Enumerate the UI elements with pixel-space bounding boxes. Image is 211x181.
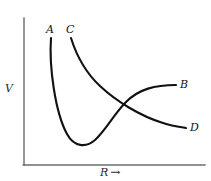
curve-label-c: C	[66, 24, 74, 35]
curve-label-b: B	[180, 79, 188, 90]
y-axis-label: V	[5, 83, 13, 94]
x-axis-arrow-icon: →	[108, 165, 120, 179]
curve-a-b	[51, 38, 176, 145]
curve-label-a: A	[46, 24, 54, 35]
potential-energy-diagram: A C B D V R→	[0, 0, 211, 181]
x-axis-label: R→	[100, 166, 120, 178]
curve-label-d: D	[190, 122, 199, 133]
curve-c-d	[71, 38, 186, 128]
